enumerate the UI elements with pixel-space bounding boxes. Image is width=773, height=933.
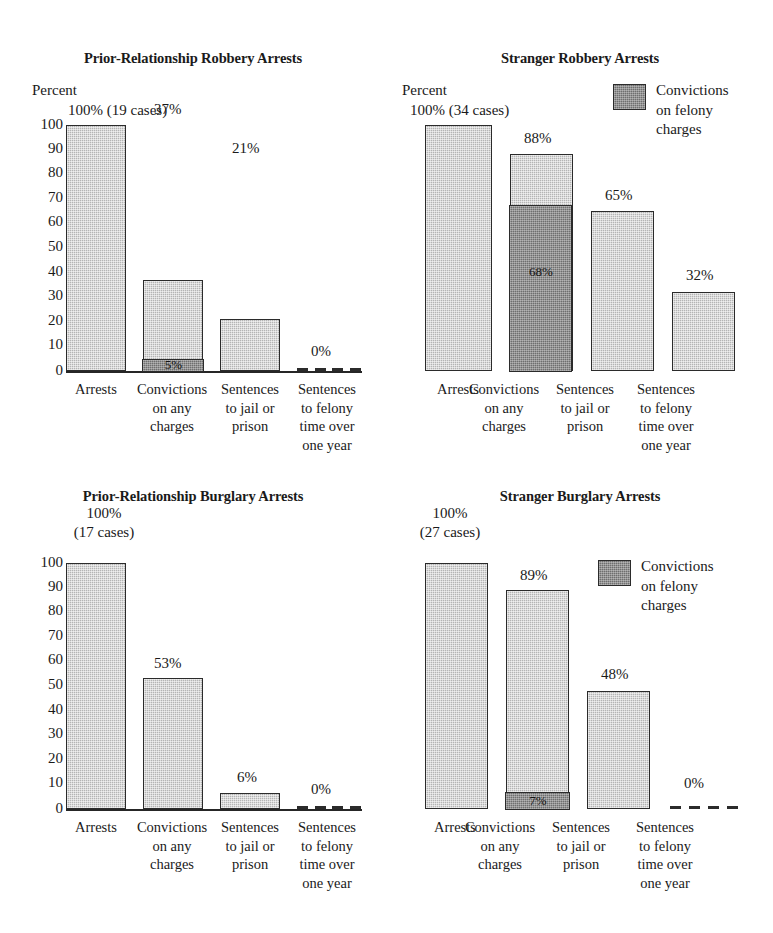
chart-panel-stranger-robbery: Stranger Robbery Arrests Percent 100% (3… <box>387 42 773 482</box>
y-tick-label: 30 <box>48 726 63 741</box>
legend-label-felony: Convictions on felony charges <box>656 81 729 140</box>
y-tick-label: 100 <box>41 555 64 570</box>
bar-sentences-jail <box>591 211 654 371</box>
y-tick-label: 0 <box>56 801 64 816</box>
legend-label-felony: Convictions on felony charges <box>641 557 714 616</box>
bar-value-label: 88% <box>524 130 552 147</box>
y-tick-label: 100 <box>41 117 64 132</box>
bar-zero-dashes <box>297 806 361 809</box>
chart-title: Stranger Burglary Arrests <box>387 488 773 505</box>
category-label-arrests: Arrests <box>56 380 136 399</box>
y-tick-label: 40 <box>48 263 63 278</box>
bar-value-label: 37% <box>154 101 182 118</box>
category-label-sentences-felony: Sentences to felony time over one year <box>285 380 369 454</box>
x-axis <box>66 371 362 373</box>
y-tick-label: 70 <box>48 189 63 204</box>
bar-value-label: 48% <box>601 666 629 683</box>
y-axis-title: Percent <box>402 82 447 99</box>
bar-convictions-any: 68% <box>510 154 573 371</box>
bar-sentences-jail <box>587 691 650 809</box>
bar-value-label: 0% <box>684 775 704 792</box>
bar-zero-dashes <box>297 368 361 371</box>
chart-title: Prior-Relationship Burglary Arrests <box>0 488 386 505</box>
category-label-sentences-jail: Sentences to jail or prison <box>208 818 292 874</box>
plot-area: 0 10 20 30 40 50 60 70 80 90 100 5% <box>66 125 362 371</box>
bar-felony-value: 68% <box>529 264 553 280</box>
bar-total-label: 100% (34 cases) <box>410 102 509 119</box>
y-tick-label: 80 <box>48 603 63 618</box>
y-tick-label: 10 <box>48 337 63 352</box>
bar-total-label: 100% (19 cases) <box>68 102 167 119</box>
bar-arrests <box>425 125 492 371</box>
bar-value-label: 65% <box>605 187 633 204</box>
bar-convictions-any <box>143 678 203 809</box>
bar-value-label: 6% <box>237 769 257 786</box>
category-label-convictions: Convictions on any charges <box>130 380 214 436</box>
bar-arrests <box>66 125 126 371</box>
y-tick-label: 60 <box>48 214 63 229</box>
bar-felony-segment: 7% <box>505 792 570 810</box>
bar-value-label: 53% <box>154 655 182 672</box>
plot-area: 68% 88% 65% 32% <box>425 125 755 371</box>
y-tick-label: 70 <box>48 627 63 642</box>
bar-felony-segment: 5% <box>142 359 204 372</box>
y-tick-label: 0 <box>56 363 64 378</box>
bar-felony-value: 5% <box>165 357 182 373</box>
y-tick-label: 40 <box>48 701 63 716</box>
y-tick-label: 50 <box>48 677 63 692</box>
y-tick-label: 10 <box>48 775 63 790</box>
bar-value-label: 0% <box>311 343 331 360</box>
chart-panel-prior-robbery: Prior-Relationship Robbery Arrests Perce… <box>0 42 386 482</box>
bar-value-label: 21% <box>232 140 260 157</box>
category-label-sentences-felony: Sentences to felony time over one year <box>285 818 369 892</box>
y-tick-label: 60 <box>48 652 63 667</box>
y-tick-label: 90 <box>48 578 63 593</box>
bar-value-label: 0% <box>311 781 331 798</box>
bar-sentences-felony <box>672 292 735 371</box>
plot-area: 0 10 20 30 40 50 60 70 80 90 100 53% 6% … <box>66 563 362 809</box>
category-label-convictions: Convictions on any charges <box>130 818 214 874</box>
y-axis-title: Percent <box>32 82 77 99</box>
chart-panel-stranger-burglary: Stranger Burglary Arrests 100% (27 cases… <box>387 480 773 920</box>
category-label-arrests: Arrests <box>56 818 136 837</box>
category-label-sentences-jail: Sentences to jail or prison <box>539 818 623 874</box>
legend: Convictions on felony charges <box>598 560 768 616</box>
bar-total-label: 100% (17 cases) <box>62 504 146 542</box>
chart-title: Stranger Robbery Arrests <box>387 50 773 67</box>
y-tick-label: 20 <box>48 312 63 327</box>
legend-swatch-felony <box>598 560 631 586</box>
bar-felony-value: 7% <box>529 793 546 809</box>
bar-arrests <box>425 563 488 809</box>
y-tick-label: 90 <box>48 140 63 155</box>
bar-convictions-any: 5% <box>143 280 203 371</box>
legend: Convictions on felony charges <box>613 84 773 140</box>
category-label-convictions: Convictions on any charges <box>458 818 542 874</box>
chart-title: Prior-Relationship Robbery Arrests <box>0 50 386 67</box>
bar-felony-segment: 68% <box>509 205 572 372</box>
bar-value-label: 32% <box>686 267 714 284</box>
bar-convictions-any: 7% <box>506 590 569 809</box>
bar-sentences-jail <box>220 793 280 809</box>
category-label-convictions: Convictions on any charges <box>462 380 546 436</box>
bar-sentences-jail <box>220 319 280 371</box>
category-label-sentences-felony: Sentences to felony time over one year <box>623 818 707 892</box>
y-tick-label: 50 <box>48 239 63 254</box>
y-tick-label: 30 <box>48 288 63 303</box>
category-label-sentences-jail: Sentences to jail or prison <box>543 380 627 436</box>
legend-swatch-felony <box>613 84 646 110</box>
category-label-sentences-felony: Sentences to felony time over one year <box>624 380 708 454</box>
bar-total-label: 100% (27 cases) <box>405 504 495 542</box>
bar-value-label: 89% <box>520 567 548 584</box>
category-label-sentences-jail: Sentences to jail or prison <box>208 380 292 436</box>
x-axis <box>66 809 362 811</box>
bar-zero-dashes <box>670 806 738 809</box>
chart-panel-prior-burglary: Prior-Relationship Burglary Arrests 100%… <box>0 480 386 920</box>
y-tick-label: 80 <box>48 165 63 180</box>
y-tick-label: 20 <box>48 750 63 765</box>
bar-arrests <box>66 563 126 809</box>
figure-page: Prior-Relationship Robbery Arrests Perce… <box>0 0 773 933</box>
